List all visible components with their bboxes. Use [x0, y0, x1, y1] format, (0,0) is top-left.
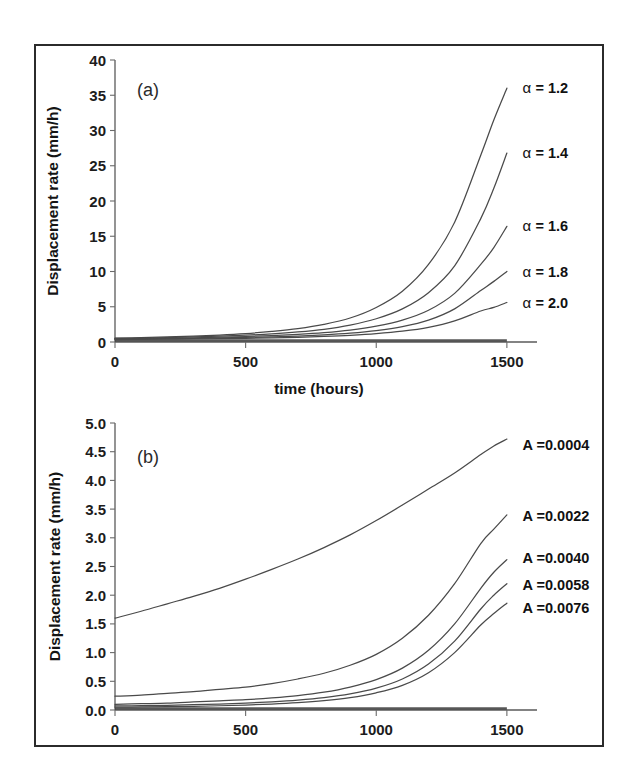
y-tick-label: 40	[89, 52, 106, 69]
y-tick-label: 3.5	[85, 501, 106, 518]
series-label: A =0.0022	[523, 508, 590, 524]
series-label: α = 2.0	[523, 294, 569, 311]
x-tick-label: 1500	[490, 353, 523, 370]
series-label: A =0.0004	[523, 437, 590, 453]
panel-letter: (a)	[137, 80, 159, 100]
data-curve	[115, 88, 507, 338]
series-label-value: = 1.6	[535, 218, 568, 234]
greek-alpha-glyph: α	[523, 217, 536, 234]
y-tick-label: 25	[89, 157, 106, 174]
y-tick-label: 3.0	[85, 529, 106, 546]
data-curve	[115, 153, 507, 338]
y-axis-title: Displacement rate (mm/h)	[44, 106, 61, 296]
series-label: α = 1.2	[523, 79, 569, 96]
y-axis-title: Displacement rate (mm/h)	[46, 472, 63, 662]
x-tick-label: 1000	[360, 353, 393, 370]
x-tick-label: 0	[111, 721, 119, 738]
y-tick-label: 2.5	[85, 558, 106, 575]
y-tick-label: 20	[89, 193, 106, 210]
y-tick-label: 4.0	[85, 472, 106, 489]
panel-letter: (b)	[137, 447, 159, 467]
greek-alpha-glyph: α	[523, 144, 536, 161]
series-label-value: = 2.0	[535, 295, 568, 311]
series-label-value: = 1.4	[535, 145, 568, 161]
data-curve	[115, 272, 507, 340]
greek-alpha-glyph: α	[523, 79, 536, 96]
greek-alpha-glyph: α	[523, 294, 536, 311]
panel-a-plot: 0510152025303540050010001500Displacement…	[36, 46, 602, 401]
data-curve	[115, 439, 507, 618]
y-tick-label: 30	[89, 122, 106, 139]
y-tick-label: 0	[98, 334, 106, 351]
panel-b-plot: 0.00.51.01.52.02.53.03.54.04.55.00500100…	[36, 401, 602, 747]
x-tick-label: 1000	[360, 721, 393, 738]
y-tick-label: 5.0	[85, 415, 106, 432]
series-label: α = 1.6	[523, 217, 569, 234]
series-label: A =0.0040	[523, 550, 590, 566]
y-tick-label: 4.5	[85, 443, 106, 460]
x-tick-label: 500	[233, 353, 258, 370]
greek-alpha-glyph: α	[523, 263, 536, 280]
series-label: A =0.0058	[523, 577, 590, 593]
y-tick-label: 2.0	[85, 587, 106, 604]
chart-panel-b: 0.00.51.01.52.02.53.03.54.04.55.00500100…	[36, 401, 602, 747]
y-tick-label: 1.0	[85, 644, 106, 661]
y-tick-label: 5	[98, 298, 106, 315]
data-curve	[115, 226, 507, 338]
x-tick-label: 0	[111, 353, 119, 370]
x-axis-title: time (hours)	[274, 380, 364, 397]
x-tick-label: 500	[233, 721, 258, 738]
series-label: α = 1.8	[523, 263, 569, 280]
figure-frame: 0510152025303540050010001500Displacement…	[34, 44, 604, 747]
series-label: A =0.0076	[523, 600, 590, 616]
y-tick-label: 0.0	[85, 702, 106, 719]
data-curve	[115, 603, 507, 707]
y-tick-label: 1.5	[85, 615, 106, 632]
y-tick-label: 10	[89, 263, 106, 280]
y-tick-label: 15	[89, 228, 106, 245]
series-label-value: = 1.8	[535, 264, 568, 280]
y-tick-label: 35	[89, 87, 106, 104]
figure-page: 0510152025303540050010001500Displacement…	[0, 0, 631, 782]
series-label: α = 1.4	[523, 144, 569, 161]
x-tick-label: 1500	[490, 721, 523, 738]
data-curve	[115, 560, 507, 705]
data-curve	[115, 515, 507, 696]
y-tick-label: 0.5	[85, 673, 106, 690]
chart-panel-a: 0510152025303540050010001500Displacement…	[36, 46, 602, 401]
series-label-value: = 1.2	[535, 80, 568, 96]
